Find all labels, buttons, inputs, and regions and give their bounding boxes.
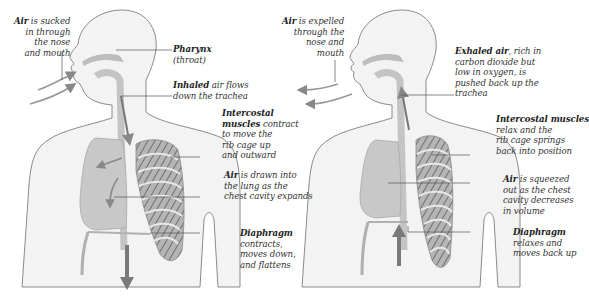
exhale-arrow <box>302 84 338 90</box>
label-text: air flows <box>209 80 248 90</box>
label-text: relaxes and <box>513 238 577 249</box>
label-bold: Exhaled air <box>455 46 508 56</box>
label-text: back into position <box>496 146 589 157</box>
label-text: in volume <box>503 206 574 217</box>
label-bold: Diaphragm <box>513 227 566 237</box>
label-text: cavity decreases <box>503 195 574 206</box>
label-bold: Diaphragm <box>240 228 293 238</box>
label-diaphragm-contracts: Diaphragm contracts, moves down, and fla… <box>240 228 296 270</box>
label-text: rib cage springs <box>496 135 589 146</box>
label-text: and flattens <box>240 260 296 271</box>
label-bold: Air <box>282 16 296 26</box>
label-intercostal-contract: Intercostal muscles contract to move the… <box>222 108 299 161</box>
label-text: the nose <box>14 37 70 48</box>
label-text: , rich in <box>508 46 541 56</box>
label-exhaled-air: Exhaled air, rich in carbon dioxide but … <box>455 46 541 99</box>
label-bold: Air <box>14 16 28 26</box>
label-diaphragm-relaxes: Diaphragm relaxes and moves back up <box>513 227 577 259</box>
label-text: chest cavity expands <box>224 191 313 202</box>
label-text: trachea <box>455 88 541 99</box>
label-text: out as the chest <box>503 185 574 196</box>
label-bold: Intercostal <box>222 108 274 118</box>
label-text: through the <box>282 27 344 38</box>
label-bold: Intercostal muscles <box>496 114 589 124</box>
label-bold: Pharynx <box>173 44 211 54</box>
label-air-expelled: Air is expelled through the nose and mou… <box>282 16 344 58</box>
label-text: mouth <box>282 48 344 59</box>
label-air-drawn-in: Air is drawn into the lung as the chest … <box>224 170 313 202</box>
label-text: pushed back up the <box>455 78 541 89</box>
label-text: contracts, <box>240 239 296 250</box>
label-bold: Air <box>224 170 238 180</box>
label-text: the lung as the <box>224 181 313 192</box>
label-bold: Inhaled <box>173 80 209 90</box>
label-text: is drawn into <box>238 170 297 180</box>
label-text: low in oxygen, is <box>455 67 541 78</box>
lung <box>80 138 127 230</box>
label-text: and outward <box>222 150 299 161</box>
label-air-squeezed-out: Air is squeezed out as the chest cavity … <box>503 174 574 216</box>
label-text: carbon dioxide but <box>455 57 541 68</box>
label-text: is expelled <box>296 16 344 26</box>
label-bold: muscles <box>222 119 260 129</box>
label-text: is sucked <box>28 16 70 26</box>
label-bold: Air <box>503 174 517 184</box>
label-text: in through <box>14 27 70 38</box>
label-text: rib cage up <box>222 140 299 151</box>
label-text: contract <box>260 119 298 129</box>
label-text: down the trachea <box>173 91 248 102</box>
label-text: and mouth <box>14 48 70 59</box>
inhale-arrow <box>38 74 72 90</box>
label-text: moves back up <box>513 248 577 259</box>
label-text: is squeezed <box>517 174 569 184</box>
label-air-sucked-in: Air is sucked in through the nose and mo… <box>14 16 70 58</box>
label-text: moves down, <box>240 249 296 260</box>
label-pharynx: Pharynx (throat) <box>173 44 211 65</box>
label-text: nose and <box>282 37 344 48</box>
label-text: to move the <box>222 129 299 140</box>
label-inhaled-air: Inhaled air flows down the trachea <box>173 80 248 101</box>
label-intercostal-relax: Intercostal muscles relax and the rib ca… <box>496 114 589 156</box>
label-text: (throat) <box>173 55 211 66</box>
label-text: relax and the <box>496 125 589 136</box>
